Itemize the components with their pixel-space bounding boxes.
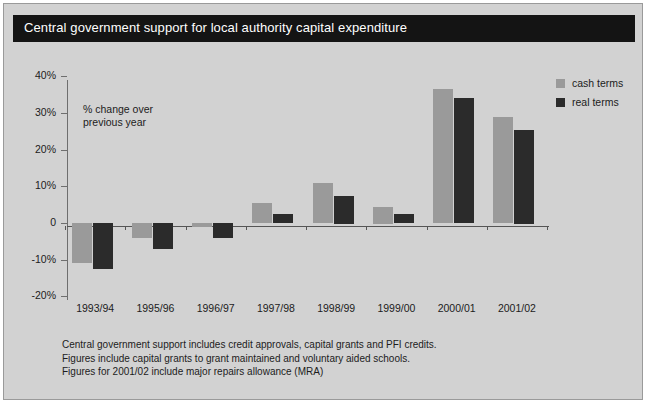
bar-cash-terms-1999-00	[373, 207, 393, 224]
bar-real-terms-1995-96	[153, 223, 173, 249]
bar-cash-terms-2000-01	[433, 89, 453, 223]
y-axis-tick-label: -20%	[31, 289, 56, 301]
x-axis-tick	[65, 226, 66, 230]
title-bar: Central government support for local aut…	[13, 15, 635, 42]
y-axis-tick	[61, 186, 67, 187]
annotation-line-2: previous year	[83, 116, 153, 129]
y-axis-tick	[61, 113, 67, 114]
x-axis-tick	[186, 226, 187, 230]
y-axis-tick	[61, 223, 67, 224]
chart-legend: cash terms real terms	[556, 77, 623, 115]
y-axis-tick-label: 0	[50, 216, 56, 228]
bar-real-terms-1997-98	[273, 214, 293, 223]
y-axis-tick	[61, 76, 67, 77]
y-axis-tick	[61, 150, 67, 151]
annotation-line-1: % change over	[83, 103, 153, 116]
footnote-line: Figures for 2001/02 include major repair…	[62, 365, 437, 379]
legend-label-real-terms: real terms	[572, 96, 619, 108]
footnote-line: Central government support includes cred…	[62, 338, 437, 352]
bar-real-terms-1996-97	[213, 223, 233, 238]
bar-real-terms-1993-94	[93, 223, 113, 269]
bar-real-terms-1998-99	[334, 196, 354, 224]
footnotes: Central government support includes cred…	[62, 338, 437, 379]
bar-real-terms-2000-01	[454, 98, 474, 223]
y-axis-tick	[61, 296, 67, 297]
bar-cash-terms-2001-02	[493, 117, 513, 223]
x-axis-tick	[547, 226, 548, 230]
legend-item-real-terms: real terms	[556, 96, 623, 108]
bar-cash-terms-1997-98	[252, 203, 272, 223]
y-axis-tick-label: 30%	[35, 106, 56, 118]
legend-swatch-real-terms	[556, 98, 565, 107]
legend-swatch-cash-terms	[556, 79, 565, 88]
x-axis-tick	[306, 226, 307, 230]
bar-cash-terms-1998-99	[313, 183, 333, 223]
chart-annotation: % change over previous year	[83, 103, 153, 129]
y-axis-labels: 40%30%20%10%0-10%-20%	[4, 4, 56, 403]
bar-real-terms-2001-02	[514, 130, 534, 224]
y-axis-tick-label: 10%	[35, 179, 56, 191]
x-axis-tick	[427, 226, 428, 230]
figure-panel: Central government support for local aut…	[3, 3, 643, 400]
y-axis-tick-label: 20%	[35, 143, 56, 155]
bar-real-terms-1999-00	[394, 214, 414, 223]
bar-cash-terms-1995-96	[132, 223, 152, 238]
x-axis-tick	[487, 226, 488, 230]
bar-cash-terms-1993-94	[72, 223, 92, 263]
legend-label-cash-terms: cash terms	[572, 77, 623, 89]
y-axis-tick	[61, 260, 67, 261]
page-title: Central government support for local aut…	[24, 20, 407, 35]
y-axis-tick-label: 40%	[35, 69, 56, 81]
x-axis-tick	[246, 226, 247, 230]
x-axis-tick	[366, 226, 367, 230]
bar-cash-terms-1996-97	[192, 223, 212, 227]
legend-item-cash-terms: cash terms	[556, 77, 623, 89]
footnote-line: Figures include capital grants to grant …	[62, 352, 437, 366]
x-axis-tick-label: 2001/02	[477, 302, 557, 314]
y-axis-tick-label: -10%	[31, 253, 56, 265]
x-axis-tick	[125, 226, 126, 230]
